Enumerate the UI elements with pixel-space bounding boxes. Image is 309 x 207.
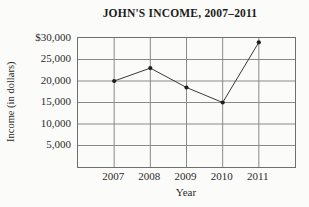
y-tick-label: $30,000 (18, 31, 71, 44)
data-point-2008 (148, 66, 152, 70)
x-tick-label: 2008 (129, 170, 169, 182)
data-point-2007 (112, 79, 116, 83)
y-tick-label: 25,000 (18, 52, 71, 65)
data-point-2010 (221, 100, 225, 104)
line-series-canvas (78, 38, 295, 167)
x-axis-title: Year (165, 186, 207, 198)
y-tick-label: 15,000 (18, 95, 71, 108)
chart-title: JOHN'S INCOME, 2007–2011 (60, 7, 300, 19)
y-tick-label: 5,000 (18, 138, 71, 151)
y-tick-label: 10,000 (18, 117, 71, 130)
data-point-2011 (257, 40, 261, 44)
x-tick-label: 2011 (238, 170, 278, 182)
y-axis-title: Income (in dollars) (3, 37, 17, 166)
x-tick-label: 2009 (166, 170, 206, 182)
x-tick-label: 2007 (93, 170, 133, 182)
income-line-chart: JOHN'S INCOME, 2007–2011 Income (in doll… (0, 0, 309, 207)
data-point-2009 (184, 85, 188, 89)
y-tick-label: 20,000 (18, 74, 71, 87)
plot-area (77, 37, 296, 168)
x-tick-label: 2010 (202, 170, 242, 182)
